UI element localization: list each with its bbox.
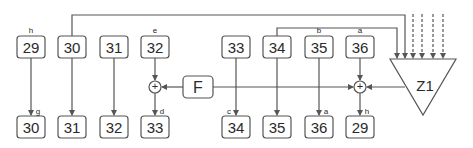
top-value: 30 [64,39,81,56]
top-value: 36 [352,39,369,56]
top-value: 31 [106,39,123,56]
bottom-tag: d [160,107,164,116]
top-value: 34 [269,39,286,56]
triangle-label: Z1 [416,77,434,94]
bottom-tag: a [324,107,329,116]
diagram-canvas: 29 30 31 32 33 34 35 36 30 31 32 33 34 3… [0,0,473,148]
top-tag: b [317,26,322,35]
bottom-value: 30 [23,119,40,136]
bottom-value: 29 [352,119,369,136]
bottom-value: 35 [269,119,286,136]
top-tag: h [29,26,33,35]
bottom-tag: c [227,107,231,116]
adder-symbol: + [152,80,158,92]
top-value: 29 [23,39,40,56]
bottom-tag: g [36,107,40,116]
bottom-value: 33 [147,119,164,136]
bottom-tag: h [365,107,369,116]
bottom-value: 31 [64,119,81,136]
top-value: 35 [311,39,328,56]
bottom-value: 36 [311,119,328,136]
bottom-value: 32 [106,119,123,136]
top-value: 32 [147,39,164,56]
adder-symbol: + [357,80,363,92]
top-tag: e [153,26,158,35]
top-value: 33 [228,39,245,56]
bottom-value: 34 [228,119,245,136]
top-tag: a [358,26,363,35]
function-label: F [193,79,203,96]
